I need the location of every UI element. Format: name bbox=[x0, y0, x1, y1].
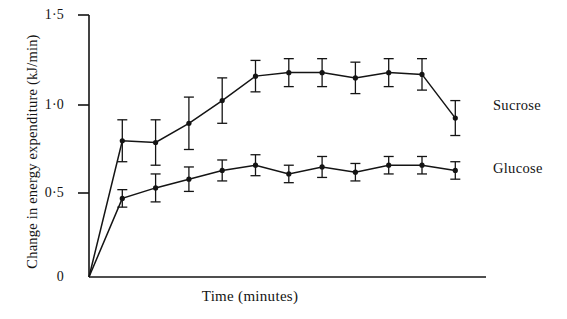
plot-area bbox=[0, 0, 567, 319]
axis-lines bbox=[78, 15, 486, 277]
data-point bbox=[120, 138, 125, 143]
data-point bbox=[353, 170, 358, 175]
data-point bbox=[386, 163, 391, 168]
series-line-glucose bbox=[89, 165, 455, 277]
data-series-group bbox=[89, 59, 460, 277]
data-point bbox=[120, 196, 125, 201]
data-point bbox=[153, 140, 158, 145]
data-point bbox=[253, 163, 258, 168]
chart-figure: Change in energy expenditure (kJ/min) Ti… bbox=[0, 0, 567, 319]
data-point bbox=[253, 74, 258, 79]
data-point bbox=[453, 115, 458, 120]
data-point bbox=[419, 163, 424, 168]
data-point bbox=[419, 72, 424, 77]
data-point bbox=[220, 168, 225, 173]
data-point bbox=[386, 70, 391, 75]
data-point bbox=[320, 164, 325, 169]
data-point bbox=[220, 98, 225, 103]
data-point bbox=[353, 75, 358, 80]
data-point bbox=[186, 121, 191, 126]
data-point bbox=[286, 171, 291, 176]
data-point bbox=[153, 185, 158, 190]
data-point bbox=[186, 177, 191, 182]
data-point bbox=[320, 70, 325, 75]
data-point bbox=[453, 168, 458, 173]
data-point bbox=[286, 70, 291, 75]
series-line-sucrose bbox=[89, 73, 455, 277]
